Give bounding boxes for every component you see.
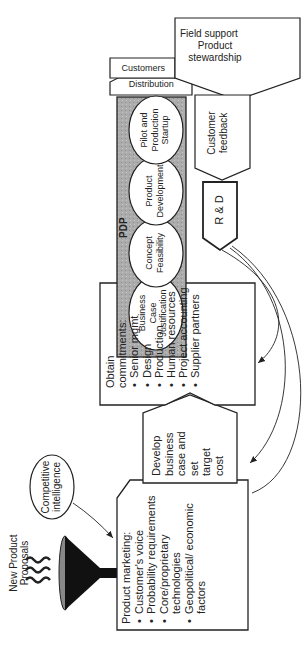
customer-feedback-line: Customer — [206, 100, 218, 166]
develop-line: target — [200, 406, 213, 476]
customers-label: Customers — [108, 62, 178, 75]
pdp-stage-label: Business Case Justification — [137, 278, 169, 348]
competitive-intelligence-label: Competitive intelligence — [40, 455, 62, 519]
funnel-label-line2: Proposals — [19, 528, 30, 598]
stage-line: Justification — [158, 278, 169, 348]
develop-line: Develop — [150, 406, 163, 476]
list-item: Supplier partners — [189, 286, 201, 378]
develop-line: cost — [213, 406, 226, 476]
stage-line: Product — [144, 157, 155, 225]
pdp-stage-label: Pilot and Production Startup — [139, 96, 171, 164]
stage-line: Feasibility — [155, 219, 166, 287]
stage-line: Case — [148, 278, 159, 348]
stage-line: Concept — [144, 219, 155, 287]
customer-feedback-label: Customer feedback — [206, 100, 230, 166]
pdp-stage-label: Product Development — [144, 157, 165, 225]
stage-line: Production — [150, 96, 161, 164]
list-item: Project accounting — [177, 286, 189, 378]
rd-label: R & D — [213, 182, 226, 238]
distribution-label: Distribution — [110, 78, 192, 91]
funnel-icon — [26, 536, 117, 610]
obtain-commitments-title: Obtain commitments: — [104, 286, 128, 388]
pdp-label: PDP — [118, 217, 131, 238]
develop-line: case and — [175, 406, 188, 476]
stage-line: Development — [155, 157, 166, 225]
stage-line: Startup — [160, 96, 171, 164]
product-marketing-text: Product marketing: Customer's voice Prob… — [120, 484, 208, 624]
funnel-label: New Product Proposals — [8, 528, 30, 598]
process-diagram: New Product Proposals Competitive intell… — [0, 0, 305, 668]
develop-line: set — [188, 406, 201, 476]
stage-line: Business — [137, 278, 148, 348]
list-item: Core/proprietary technologies — [158, 484, 183, 614]
list-item: Geopolitical/ economic factors — [183, 484, 208, 614]
product-marketing-title: Product marketing: — [120, 484, 133, 624]
field-support-line: stewardship — [180, 52, 250, 64]
field-support-line: Product — [180, 40, 250, 52]
funnel-label-line1: New Product — [8, 528, 19, 598]
list-item: Probability requirements — [145, 484, 158, 614]
develop-text: Develop business case and set target cos… — [150, 406, 225, 476]
develop-line: business — [163, 406, 176, 476]
stage-line: Pilot and — [139, 96, 150, 164]
ci-line1: Competitive — [40, 455, 51, 519]
ci-line2: intelligence — [51, 455, 62, 519]
field-support-line: Field support — [180, 28, 290, 40]
pdp-stage-label: Concept Feasibility — [144, 219, 165, 287]
customer-feedback-line: feedback — [218, 100, 230, 166]
field-support-label: Field support Product stewardship — [180, 28, 290, 64]
list-item: Customer's voice — [133, 484, 146, 614]
